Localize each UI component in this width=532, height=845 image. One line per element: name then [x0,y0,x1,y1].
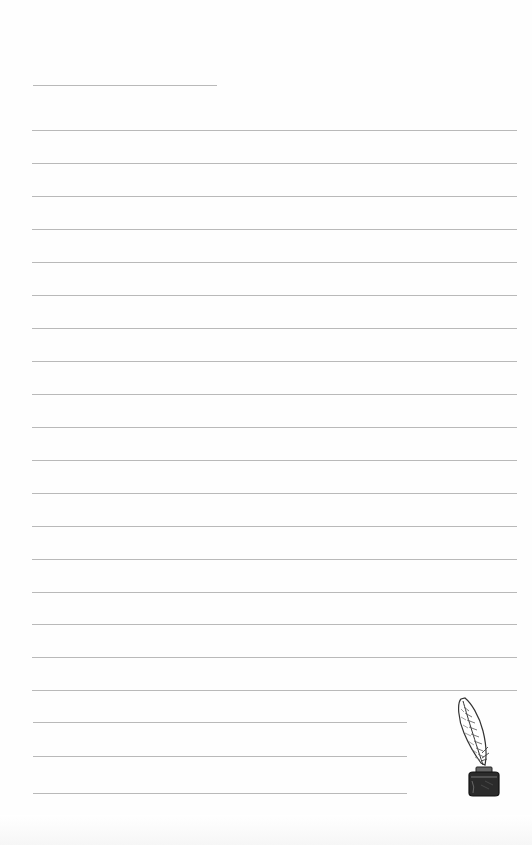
writing-line[interactable] [32,130,517,131]
short-writing-line[interactable] [33,793,407,794]
writing-line[interactable] [32,690,517,691]
quill-and-inkwell-icon [455,695,511,800]
writing-line[interactable] [32,624,517,625]
writing-line[interactable] [32,592,517,593]
writing-line[interactable] [32,361,517,362]
writing-line[interactable] [32,163,517,164]
writing-line[interactable] [32,559,517,560]
short-writing-line[interactable] [33,722,407,723]
writing-line[interactable] [32,493,517,494]
header-writing-line[interactable] [33,85,217,86]
writing-line[interactable] [32,460,517,461]
writing-page [0,0,532,845]
writing-line[interactable] [32,295,517,296]
writing-line[interactable] [32,427,517,428]
page-bottom-shade [0,815,532,845]
writing-line[interactable] [32,328,517,329]
writing-line[interactable] [32,394,517,395]
writing-line[interactable] [32,526,517,527]
writing-line[interactable] [32,262,517,263]
writing-line[interactable] [32,657,517,658]
writing-line[interactable] [32,229,517,230]
writing-line[interactable] [32,196,517,197]
short-writing-line[interactable] [33,756,407,757]
